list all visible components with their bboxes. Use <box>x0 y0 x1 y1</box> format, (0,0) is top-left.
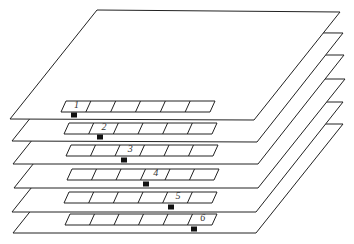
cell-number-label: 5 <box>176 190 181 201</box>
diagram-canvas: 654321 <box>0 0 354 244</box>
cell-number-label: 2 <box>102 121 107 132</box>
position-marker <box>121 158 127 163</box>
cell-number-label: 1 <box>74 99 79 110</box>
position-marker <box>143 182 149 187</box>
cell-number-label: 3 <box>127 143 133 154</box>
position-marker <box>71 113 77 118</box>
cell-number-label: 4 <box>153 167 158 178</box>
position-marker <box>191 227 197 232</box>
position-marker <box>168 205 174 210</box>
position-marker <box>97 135 103 140</box>
cell-number-label: 6 <box>200 212 205 223</box>
stacked-layers-diagram: 654321 <box>0 0 354 244</box>
